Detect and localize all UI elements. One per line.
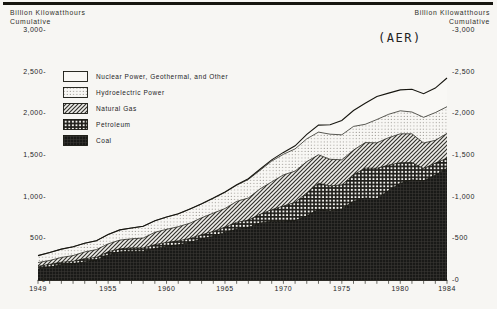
y-tick-label-right: -3,000: [452, 26, 475, 34]
y-tick-label-left: 500-: [0, 234, 46, 242]
x-tick-label: 1960: [152, 285, 182, 293]
y-tick-label-left: 1,500-: [0, 151, 46, 159]
legend-item-hydroelectric: Hydroelectric Power: [63, 87, 228, 98]
legend-swatch-hydro: [63, 87, 88, 98]
legend-swatch-natural-gas: [63, 103, 88, 114]
legend-label-hydro: Hydroelectric Power: [96, 89, 165, 96]
y-tick-label-right: -0: [452, 276, 459, 284]
axis-group: [38, 280, 448, 283]
x-tick-label: 1984: [432, 285, 462, 293]
legend-item-coal: Coal: [63, 135, 228, 146]
y-tick-label-left: 3,000-: [0, 26, 46, 34]
legend-label-nuclear: Nuclear Power, Geothermal, and Other: [96, 73, 228, 80]
y-tick-label-right: -500: [452, 234, 468, 242]
y-tick-label-left: 1,000-: [0, 193, 46, 201]
x-tick-label: 1975: [327, 285, 357, 293]
x-tick-label: 1965: [210, 285, 240, 293]
y-tick-label-left: 2,500-: [0, 68, 46, 76]
legend-item-petroleum: Petroleum: [63, 119, 228, 130]
legend-swatch-coal: [63, 135, 88, 146]
legend-label-petroleum: Petroleum: [96, 121, 131, 128]
legend-item-nuclear-geothermal-other: Nuclear Power, Geothermal, and Other: [63, 71, 228, 82]
legend-swatch-nuclear: [63, 71, 88, 82]
x-tick-label: 1949: [23, 285, 53, 293]
y-tick-label-left: 0: [0, 276, 46, 284]
legend-item-natural-gas: Natural Gas: [63, 103, 228, 114]
legend: Nuclear Power, Geothermal, and Other Hyd…: [63, 71, 228, 151]
y-tick-label-right: -1,500: [452, 151, 475, 159]
x-tick-label: 1980: [385, 285, 415, 293]
y-tick-label-right: -1,000: [452, 193, 475, 201]
legend-swatch-petroleum: [63, 119, 88, 130]
legend-label-coal: Coal: [96, 137, 112, 144]
legend-label-natural-gas: Natural Gas: [96, 105, 137, 112]
y-tick-label-right: -2,500: [452, 68, 475, 76]
chart-page: Billion Kilowatthours Cumulative Billion…: [0, 0, 497, 309]
y-tick-label-left: 2,000-: [0, 109, 46, 117]
x-tick-label: 1955: [93, 285, 123, 293]
x-tick-label: 1970: [268, 285, 298, 293]
stacked-area-chart: [0, 0, 497, 309]
y-tick-label-right: -2,000: [452, 109, 475, 117]
